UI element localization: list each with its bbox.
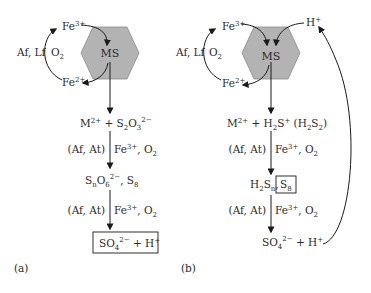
panel-a: MS Fe3+ Fe2+ Af, Lf O2 M2+ + S2O32− (Af,…	[14, 20, 160, 274]
arrow2-agents: (Af, At)	[229, 204, 266, 216]
mineral-label: MS	[262, 50, 281, 63]
fe2-label: Fe2+	[222, 77, 245, 89]
cycle-oxidant-label: O2	[209, 46, 222, 61]
panel-b-label: (b)	[181, 262, 196, 274]
arrow1-agents: (Af, At)	[68, 143, 105, 155]
arrow2-oxidants: Fe3+, O2	[275, 204, 318, 219]
fe3-label: Fe3+	[62, 20, 85, 32]
proton-recycle-arrow	[319, 27, 351, 244]
fe2-label: Fe2+	[62, 76, 85, 88]
arrow1-agents: (Af, At)	[229, 143, 266, 155]
cycle-agents-label: Af, Lf	[175, 46, 206, 58]
thiosulfate-step: M2+ + S2O32−	[80, 116, 152, 132]
polysulfide-step-2: H2Sn,	[250, 178, 279, 193]
diagram-canvas: MS Fe3+ Fe2+ Af, Lf O2 M2+ + S2O32− (Af,…	[0, 0, 371, 293]
arrow1-oxidants: Fe3+, O2	[275, 143, 318, 158]
panel-a-label: (a)	[14, 262, 28, 274]
elemental-sulfur: S8	[280, 178, 292, 193]
arrow1-oxidants: Fe3+, O2	[114, 143, 157, 158]
arrow2-oxidants: Fe3+, O2	[114, 204, 157, 219]
polysulfide-step-1: M2+ + H2S+ (H2S2)	[227, 117, 327, 132]
proton-label: H+	[306, 16, 321, 28]
cycle-oxidant-label: O2	[51, 46, 64, 61]
fe3-label: Fe3+	[222, 20, 245, 32]
sulfate-product: SO42− + H+	[99, 236, 160, 252]
mineral-label: MS	[101, 47, 120, 60]
cycle-agents-label: Af, Lf	[16, 46, 47, 58]
sulfate-product: SO42− + H+	[262, 235, 323, 251]
arrow2-agents: (Af, At)	[68, 204, 105, 216]
panel-b: MS Fe3+ Fe2+ H+ Af, Lf O2 M2+ + H2S+ (H2…	[175, 16, 351, 274]
polythionate-step: SnO62−, S8	[85, 173, 138, 189]
